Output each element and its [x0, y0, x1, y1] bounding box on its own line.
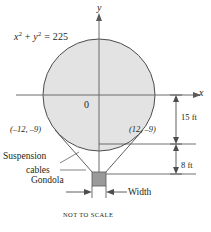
dimension-label-8ft: 8 ft	[181, 161, 193, 170]
point-label-left: (–12, –9)	[10, 125, 41, 134]
callout-leader-suspension	[60, 152, 79, 163]
y-axis-arrowhead-icon	[96, 13, 102, 21]
point-label-right: (12, –9)	[129, 125, 156, 134]
dimension-label-15ft: 15 ft	[181, 113, 197, 122]
x-axis-label: x	[199, 88, 203, 98]
origin-label: 0	[84, 100, 89, 110]
equation-x-exponent: 2	[19, 30, 22, 37]
equation-plus: +	[25, 31, 31, 42]
dimension-arrow-width	[66, 186, 127, 198]
suspension-cables-label-line1: Suspension	[3, 152, 46, 162]
not-to-scale-caption: NOT TO SCALE	[63, 212, 113, 219]
circle-equation: x2 + y2 = 225	[14, 31, 68, 42]
equation-rhs: 225	[53, 31, 69, 42]
gondola-label: Gondola	[31, 176, 64, 186]
gondola-box	[92, 172, 106, 186]
equation-y-exponent: 2	[38, 30, 41, 37]
balloon-circle-diagram: x2 + y2 = 225 y x 0 (–12, –9) (12, –9) 1…	[0, 0, 211, 232]
equation-equals: =	[44, 31, 50, 42]
width-label: Width	[128, 188, 151, 198]
y-axis-label: y	[97, 3, 101, 13]
